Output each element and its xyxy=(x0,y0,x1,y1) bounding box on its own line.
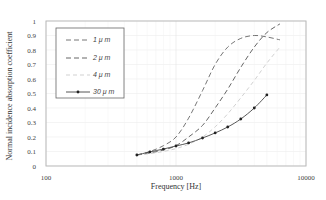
x-axis-ticks: 100100010000 xyxy=(41,174,316,182)
legend-marker xyxy=(77,91,80,94)
y-tick-label: 0.6 xyxy=(27,76,36,84)
x-axis-label: Frequency [Hz] xyxy=(151,182,202,191)
series-line xyxy=(137,95,267,155)
series-line xyxy=(137,47,280,155)
y-tick-label: 0.7 xyxy=(27,61,36,69)
x-tick-label: 10000 xyxy=(297,174,315,182)
y-axis-label: Normal incidence absorption coefficient xyxy=(5,31,14,161)
data-point-marker xyxy=(265,94,268,97)
y-tick-label: 0 xyxy=(33,163,37,171)
y-tick-label: 0.8 xyxy=(27,47,36,55)
legend: 1 μ m 2 μ m 4 μ m 30 μ m xyxy=(56,28,124,98)
y-tick-label: 1 xyxy=(33,18,37,26)
legend-label-1um: 1 μ m xyxy=(93,36,111,44)
legend-label-30um: 30 μ m xyxy=(93,88,115,96)
data-point-marker xyxy=(214,132,217,135)
y-tick-label: 0.5 xyxy=(27,90,36,98)
data-point-marker xyxy=(149,151,152,154)
data-series xyxy=(135,24,279,156)
y-tick-label: 0.4 xyxy=(27,105,36,113)
y-tick-label: 0.1 xyxy=(27,148,36,156)
data-point-marker xyxy=(253,107,256,110)
legend-label-4um: 4 μ m xyxy=(93,71,111,79)
x-tick-label: 100 xyxy=(41,174,52,182)
y-tick-label: 0.2 xyxy=(27,134,36,142)
y-tick-label: 0.3 xyxy=(27,119,36,127)
data-point-marker xyxy=(187,142,190,145)
data-point-marker xyxy=(239,118,242,121)
x-tick-label: 1000 xyxy=(169,174,184,182)
data-point-marker xyxy=(135,154,138,157)
data-point-marker xyxy=(201,137,204,140)
y-axis-ticks: 00.10.20.30.40.50.60.70.80.91 xyxy=(27,18,36,171)
data-point-marker xyxy=(175,145,178,148)
absorption-chart: 00.10.20.30.40.50.60.70.80.91 1001000100… xyxy=(0,0,326,200)
data-point-marker xyxy=(226,126,229,129)
data-point-marker xyxy=(162,148,165,151)
y-tick-label: 0.9 xyxy=(27,32,36,40)
legend-label-2um: 2 μ m xyxy=(92,54,111,62)
